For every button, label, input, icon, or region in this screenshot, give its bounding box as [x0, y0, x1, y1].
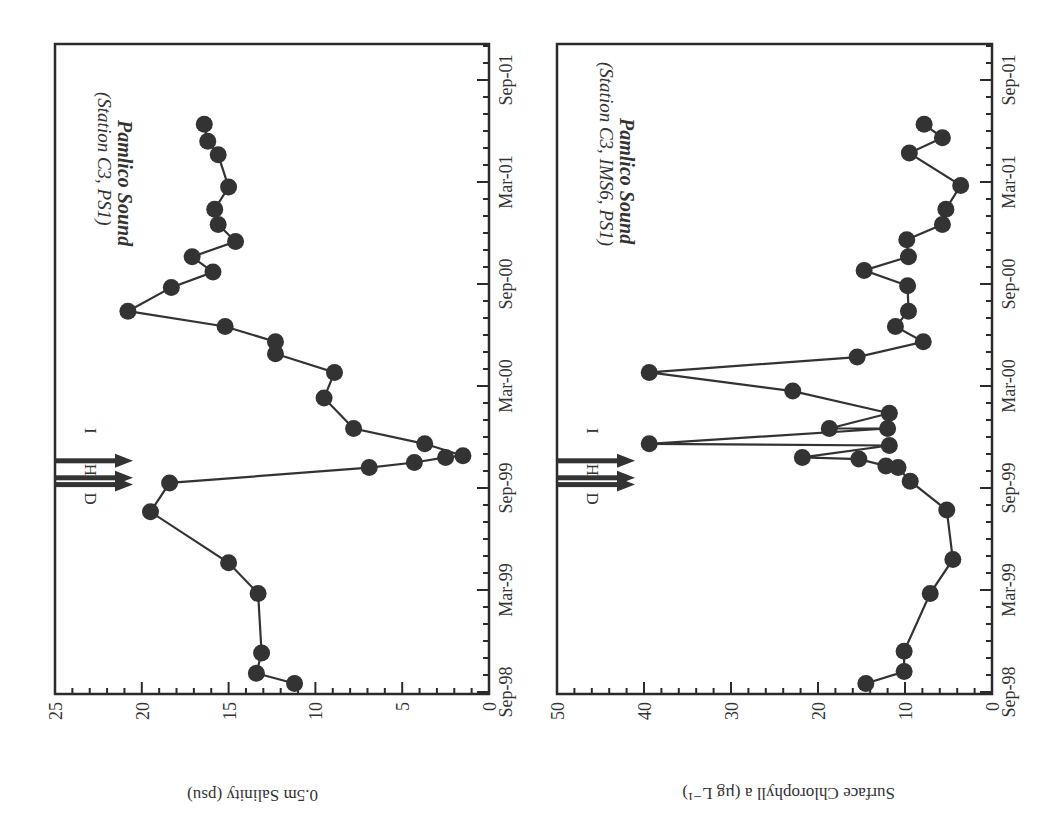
data-point	[206, 201, 223, 218]
data-point	[899, 277, 916, 294]
data-point	[204, 264, 221, 281]
event-arrow-h	[55, 475, 117, 480]
data-point	[900, 248, 917, 265]
data-point	[361, 459, 378, 476]
date-tick-label: Sep-98	[999, 667, 1019, 718]
salinity-panel: 0510152025Sep-98Mar-99Sep-99Mar-00Sep-00…	[46, 44, 516, 805]
data-point	[248, 665, 265, 682]
data-point	[937, 201, 954, 218]
data-point	[142, 503, 159, 520]
data-point	[227, 233, 244, 250]
event-arrow-h	[557, 475, 619, 480]
data-point	[938, 502, 955, 519]
data-point	[934, 129, 951, 146]
date-tick-label: Sep-01	[496, 55, 516, 106]
svg-text:25: 25	[46, 702, 66, 720]
salinity-title: Pamlico Sound	[114, 119, 136, 247]
svg-text:50: 50	[548, 702, 568, 720]
data-point	[184, 248, 201, 265]
date-tick-label: Mar-01	[999, 155, 1019, 209]
svg-text:Mar-00: Mar-00	[999, 359, 1019, 413]
value-tick-label: 25	[46, 702, 66, 720]
data-point	[437, 449, 454, 466]
data-point	[877, 457, 894, 474]
salinity-panel-title: Pamlico Sound	[114, 119, 136, 247]
svg-text:Sep-01: Sep-01	[999, 55, 1019, 106]
chlorophyll-series-points	[641, 116, 969, 692]
date-tick-label: Sep-01	[999, 55, 1019, 106]
svg-text:Mar-01: Mar-01	[496, 155, 516, 209]
salinity-axis-title-text: 0.5m Salinity (psu)	[187, 786, 318, 805]
chlorophyll-subtitle: (Station C3, IMS6, PS1)	[595, 62, 617, 246]
data-point	[896, 643, 913, 660]
svg-text:Sep-99: Sep-99	[496, 463, 516, 514]
data-point	[794, 449, 811, 466]
data-point	[898, 231, 915, 248]
data-point	[856, 262, 873, 279]
data-point	[902, 473, 919, 490]
svg-text:20: 20	[809, 702, 829, 720]
svg-text:15: 15	[220, 702, 240, 720]
svg-text:5: 5	[393, 702, 413, 711]
date-tick-label: Mar-99	[999, 563, 1019, 617]
value-tick-label: 20	[133, 702, 153, 720]
data-point	[784, 383, 801, 400]
date-tick-label: Sep-99	[999, 463, 1019, 514]
event-label-h: H	[583, 464, 602, 476]
data-point	[406, 454, 423, 471]
svg-text:40: 40	[635, 702, 655, 720]
data-point	[220, 554, 237, 571]
data-point	[881, 405, 898, 422]
event-arrow-d	[557, 482, 619, 487]
svg-text:20: 20	[133, 702, 153, 720]
data-point	[316, 389, 333, 406]
svg-text:10: 10	[306, 702, 326, 720]
svg-text:Sep-99: Sep-99	[999, 463, 1019, 514]
salinity-panel-subtitle: (Station C3, PS1)	[93, 92, 115, 226]
value-tick-label: 5	[393, 702, 413, 711]
chlorophyll-panel: 01020304050Sep-98Mar-99Sep-99Mar-00Sep-0…	[548, 44, 1019, 803]
date-tick-label: Mar-99	[496, 563, 516, 617]
chlorophyll-series-line	[649, 124, 960, 683]
data-point	[881, 437, 898, 454]
svg-text:Sep-98: Sep-98	[496, 667, 516, 718]
chlorophyll-panel-title: Pamlico Sound	[616, 117, 638, 245]
data-point	[641, 364, 658, 381]
salinity-series-line	[128, 124, 463, 683]
svg-text:Mar-99: Mar-99	[999, 563, 1019, 617]
value-tick-label: 20	[809, 702, 829, 720]
data-point	[915, 333, 932, 350]
event-label-d: D	[583, 492, 602, 504]
svg-text:Mar-01: Mar-01	[999, 155, 1019, 209]
data-point	[901, 145, 918, 162]
date-tick-label: Sep-00	[496, 259, 516, 310]
chlorophyll-axis-title: Surface Chlorophyll a (µg L⁻¹)	[682, 784, 895, 803]
data-point	[267, 333, 284, 350]
data-point	[220, 179, 237, 196]
rotated-figure: 0510152025Sep-98Mar-99Sep-99Mar-00Sep-00…	[0, 0, 1060, 819]
data-point	[857, 675, 874, 692]
data-point	[345, 420, 362, 437]
chlorophyll-axis-title-text: Surface Chlorophyll a (µg L⁻¹)	[682, 784, 895, 803]
svg-text:Sep-98: Sep-98	[999, 667, 1019, 718]
svg-text:Sep-01: Sep-01	[496, 55, 516, 106]
date-tick-label: Sep-99	[496, 463, 516, 514]
svg-text:30: 30	[722, 702, 742, 720]
data-point	[641, 435, 658, 452]
data-point	[887, 318, 904, 335]
salinity-subtitle: (Station C3, PS1)	[93, 92, 115, 226]
date-tick-label: Mar-01	[496, 155, 516, 209]
salinity-axis-title: 0.5m Salinity (psu)	[187, 786, 318, 805]
data-point	[253, 644, 270, 661]
chlorophyll-panel-subtitle: (Station C3, IMS6, PS1)	[595, 62, 617, 246]
value-tick-label: 50	[548, 702, 568, 720]
data-point	[821, 420, 838, 437]
data-point	[416, 435, 433, 452]
salinity-event-arrows: DHI	[55, 428, 133, 505]
data-point	[196, 116, 213, 133]
date-tick-label: Mar-00	[496, 359, 516, 413]
data-point	[944, 551, 961, 568]
data-point	[952, 177, 969, 194]
data-point	[199, 133, 216, 150]
data-point	[879, 420, 896, 437]
